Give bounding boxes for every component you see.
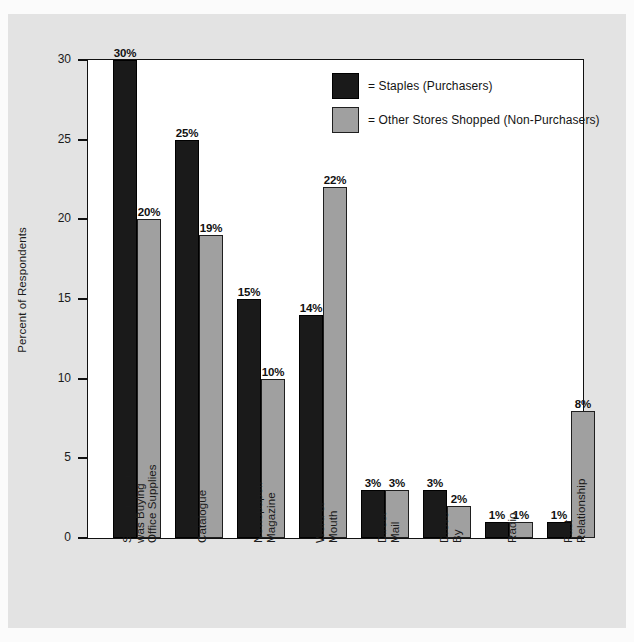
y-axis-tick-label: 5 [45, 450, 71, 464]
chart-figure: Percent of Respondents = Staples (Purcha… [0, 0, 634, 642]
y-axis-tick-mark [78, 298, 87, 300]
y-axis-tick-mark [78, 537, 87, 539]
bar-value-label: 20% [138, 206, 161, 218]
y-axis-tick-mark [78, 457, 87, 459]
y-axis-tick-label: 15 [45, 291, 71, 305]
x-axis-label: Word of Mouth [314, 502, 339, 543]
x-axis-label: Past Relationship [562, 479, 587, 544]
y-axis-tick-mark [78, 378, 87, 380]
bar: 25% [175, 140, 199, 538]
legend-label-non-purchasers: = Other Stores Shopped (Non-Purchasers) [368, 113, 600, 127]
bar-value-label: 10% [262, 366, 285, 378]
y-axis-tick-label: 0 [45, 530, 71, 544]
plot-area: = Staples (Purchasers) = Other Stores Sh… [87, 59, 584, 539]
x-axis-label: Direct Mail [376, 512, 401, 543]
bar-value-label: 2% [451, 493, 467, 505]
plot-inner: = Staples (Purchasers) = Other Stores Sh… [88, 60, 583, 538]
legend-swatch-purchasers [332, 73, 359, 99]
y-axis-tick-label: 10 [45, 371, 71, 385]
bar-value-label: 8% [575, 398, 591, 410]
legend-label-purchasers: = Staples (Purchasers) [368, 79, 493, 93]
bar-value-label: 19% [200, 222, 223, 234]
x-axis-label: Saw it in Store/ was Buying Office Suppl… [121, 464, 159, 543]
chart-panel: Percent of Respondents = Staples (Purcha… [8, 14, 626, 628]
bar-value-label: 3% [365, 477, 381, 489]
bar-value-label: 15% [238, 286, 261, 298]
bar-value-label: 3% [389, 477, 405, 489]
x-axis-label: Radio [506, 512, 519, 543]
bar-value-label: 30% [114, 47, 137, 59]
bar: 22% [323, 187, 347, 538]
bar-value-label: 14% [300, 302, 323, 314]
legend-swatch-non-purchasers [332, 107, 359, 133]
x-axis-label: Drove By [438, 512, 463, 543]
bar-value-label: 25% [176, 127, 199, 139]
x-axis-label: Catalogue [196, 490, 209, 543]
y-axis-tick-label: 20 [45, 211, 71, 225]
y-axis-tick-mark [78, 139, 87, 141]
bar-value-label: 22% [324, 174, 347, 186]
y-axis-tick-label: 30 [45, 52, 71, 66]
y-axis-tick-mark [78, 218, 87, 220]
bar-value-label: 1% [489, 509, 505, 521]
y-axis-tick-label: 25 [45, 132, 71, 146]
y-axis-title: Percent of Respondents [16, 60, 28, 520]
y-axis-tick-mark [78, 59, 87, 61]
bar-value-label: 3% [427, 477, 443, 489]
x-axis-label: Newspaper/ Magazine [252, 481, 277, 543]
